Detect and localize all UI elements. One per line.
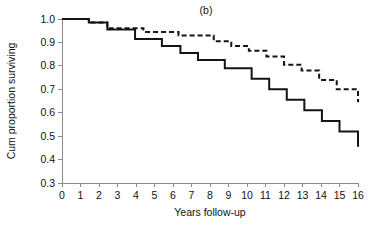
kaplan-meier-plot: (b) 0.30.40.50.60.70.80.91.0 01234567891…	[0, 0, 369, 230]
x-axis-title: Years follow-up	[174, 206, 246, 218]
x-tick-label: 6	[170, 189, 176, 201]
x-tick-label: 1	[78, 189, 84, 201]
y-tick-label: 0.6	[40, 106, 55, 118]
survival-chart-figure: (b) 0.30.40.50.60.70.80.91.0 01234567891…	[0, 0, 369, 230]
x-tick-label: 8	[207, 189, 213, 201]
y-tick-label: 0.9	[40, 36, 55, 48]
y-tick-label: 0.8	[40, 59, 55, 71]
x-tick-label: 9	[226, 189, 232, 201]
x-tick-label: 15	[334, 189, 346, 201]
x-tick-label: 5	[152, 189, 158, 201]
x-tick-label: 10	[241, 189, 253, 201]
x-tick-label: 12	[278, 189, 290, 201]
y-tick-label: 0.7	[40, 83, 55, 95]
curves-layer	[62, 19, 358, 147]
y-tick-label: 0.3	[40, 177, 55, 189]
x-tick-label: 11	[260, 189, 271, 201]
x-tick-label: 0	[59, 189, 65, 201]
x-tick-label: 14	[315, 189, 327, 201]
panel-label: (b)	[200, 4, 213, 16]
solid-curve	[62, 19, 358, 147]
x-tick-label: 13	[297, 189, 309, 201]
y-axis: 0.30.40.50.60.70.80.91.0	[40, 13, 62, 189]
y-tick-label: 1.0	[40, 13, 55, 25]
x-axis: 012345678910111213141516	[59, 183, 364, 201]
x-tick-label: 16	[352, 189, 364, 201]
x-tick-label: 7	[189, 189, 195, 201]
y-tick-label: 0.5	[40, 130, 55, 142]
x-tick-label: 4	[133, 189, 139, 201]
y-tick-label: 0.4	[40, 153, 55, 165]
x-tick-label: 2	[96, 189, 102, 201]
y-axis-title: Cum proportion surviving	[5, 42, 17, 159]
x-tick-label: 3	[115, 189, 121, 201]
